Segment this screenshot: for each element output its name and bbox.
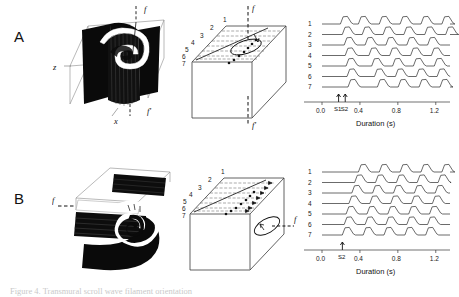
channel-label-6: 6 <box>308 221 312 228</box>
stimulus-label-S2: S2 <box>341 106 349 112</box>
x-axis-label-b: Duration (s) <box>356 267 396 276</box>
site-label-6-b: 6 <box>182 205 186 212</box>
label-axis-x-a: x <box>113 116 118 126</box>
x-tick-label: 0.4 <box>354 107 363 114</box>
channel-label-4: 4 <box>308 200 312 207</box>
figure-panel-b: B <box>0 148 459 283</box>
site-label-5-b: 5 <box>183 198 187 205</box>
trace-channel-5 <box>322 58 450 66</box>
x-tick-label: 1.2 <box>430 255 439 262</box>
channel-label-7: 7 <box>308 231 312 238</box>
channel-label-3: 3 <box>308 189 312 196</box>
trace-channel-6 <box>322 69 450 77</box>
x-tick-label: 0.8 <box>392 107 401 114</box>
figure-caption: Figure 4. Transmural scroll wave filamen… <box>10 286 450 297</box>
trace-channel-1 <box>322 164 455 172</box>
stimulus-arrow-S2 <box>343 94 347 102</box>
wave-core-a <box>108 32 140 106</box>
x-axis-label-a: Duration (s) <box>356 119 396 128</box>
label-f-b: f <box>52 195 56 205</box>
site-label-7-b: 7 <box>182 212 186 219</box>
trace-channel-4 <box>322 196 450 204</box>
site-label-3-b: 3 <box>198 184 202 191</box>
channel-label-1: 1 <box>308 168 312 175</box>
channel-label-2: 2 <box>308 179 312 186</box>
x-axis-ticks-b: 0.00.40.81.2 <box>316 250 439 262</box>
tissue-block-b: f 1 2 3 4 5 6 7 <box>182 148 302 283</box>
site-label-7-a: 7 <box>182 60 186 67</box>
channel-labels-a: 1234567 <box>308 20 312 90</box>
trace-channel-4 <box>322 48 450 56</box>
channel-label-5: 5 <box>308 210 312 217</box>
label-f-block-b: f <box>294 214 298 224</box>
stimulus-arrow-S1 <box>337 94 341 102</box>
channel-label-2: 2 <box>308 31 312 38</box>
site-label-4-a: 4 <box>191 39 195 46</box>
trace-channel-3 <box>322 185 450 193</box>
trace-lines-a <box>322 16 459 87</box>
block-body-a <box>192 26 286 118</box>
label-f-prime-bottom-a: f' <box>147 106 151 116</box>
panel-a-letter: A <box>14 28 24 45</box>
trace-channel-7 <box>322 79 453 87</box>
label-axis-z-a: z <box>52 62 57 72</box>
channel-labels-b: 1234567 <box>308 168 312 238</box>
x-tick-label: 0.4 <box>354 255 363 262</box>
channel-label-1: 1 <box>308 20 312 27</box>
trace-channel-7 <box>322 227 450 235</box>
trace-channel-1 <box>322 16 455 24</box>
label-f-top-block-a: f <box>252 3 256 13</box>
channel-label-5: 5 <box>308 62 312 69</box>
site-label-2-b: 2 <box>208 176 212 183</box>
label-f-prime-bottom-block-a: f' <box>252 120 256 130</box>
channel-label-3: 3 <box>308 41 312 48</box>
trace-lines-b <box>322 164 455 235</box>
x-tick-label: 1.2 <box>430 107 439 114</box>
channel-label-6: 6 <box>308 73 312 80</box>
stimulus-markers-b: S2 <box>338 242 346 260</box>
site-label-5-a: 5 <box>185 46 189 53</box>
tissue-block-a: f f' 1 2 3 4 5 6 7 <box>182 0 302 135</box>
stimulus-arrow-S2 <box>340 242 344 250</box>
channel-label-7: 7 <box>308 83 312 90</box>
electrogram-panel-a: 1234567 S1S2 0.00.40.81.2 Duration (s) <box>300 0 458 135</box>
site-label-1-b: 1 <box>221 168 225 175</box>
scroll-wave-render-a: f f' z x <box>52 0 184 135</box>
figure-panel-a: A <box>0 0 459 148</box>
trace-channel-3 <box>322 37 450 45</box>
site-label-6-a: 6 <box>182 53 186 60</box>
scroll-wave-render-b: f <box>52 148 184 283</box>
trace-channel-2 <box>322 175 451 183</box>
stimulus-markers-a: S1S2 <box>334 94 349 112</box>
trace-channel-6 <box>322 217 450 225</box>
stimulus-label-S2: S2 <box>338 254 346 260</box>
channel-label-4: 4 <box>308 52 312 59</box>
wave-surface-upper-b <box>112 174 166 196</box>
x-tick-label: 0.8 <box>392 255 401 262</box>
electrogram-panel-b: 1234567 S2 0.00.40.81.2 Duration (s) <box>300 148 458 283</box>
site-label-2-a: 2 <box>210 24 214 31</box>
trace-channel-2 <box>322 27 459 35</box>
site-label-1-a: 1 <box>223 16 227 23</box>
block-body-b <box>190 178 284 270</box>
label-f-top-a: f <box>144 4 148 14</box>
site-label-3-a: 3 <box>200 32 204 39</box>
site-label-4-b: 4 <box>189 191 193 198</box>
x-tick-label: 0.0 <box>316 255 325 262</box>
x-tick-label: 0.0 <box>316 107 325 114</box>
panel-b-letter: B <box>14 190 24 207</box>
trace-channel-5 <box>322 206 450 214</box>
